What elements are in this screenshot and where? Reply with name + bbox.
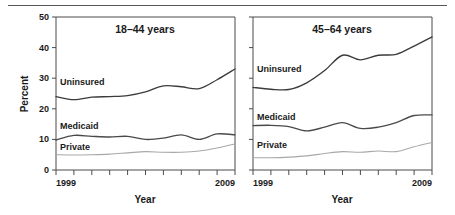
x-axis-title-right: Year xyxy=(331,194,352,205)
series-label-medicaid-right: Medicaid xyxy=(257,112,296,122)
y-tick-label-0: 0 xyxy=(44,165,49,175)
panel-title-left: 18–44 years xyxy=(115,23,175,35)
x-axis-ticks-left xyxy=(56,170,235,175)
x-tick-label-start-left: 1999 xyxy=(56,178,76,188)
series-line-medicaid-left xyxy=(56,134,235,140)
series-label-private-left: Private xyxy=(60,142,90,152)
y-tick-label-20: 20 xyxy=(39,104,49,114)
line-chart-svg: 50 40 30 20 10 0 Percent xyxy=(0,0,455,215)
y-axis-ticks-right xyxy=(249,17,253,170)
x-axis-title-left: Year xyxy=(134,194,155,205)
y-tick-label-40: 40 xyxy=(39,43,49,53)
panel-45-64: 1999 2009 Year 45–64 years Uninsured Med… xyxy=(249,17,432,205)
y-axis-ticks-left xyxy=(52,17,56,170)
series-label-uninsured-right: Uninsured xyxy=(257,64,302,74)
x-tick-label-start-right: 1999 xyxy=(253,178,273,188)
y-axis-title: Percent xyxy=(19,75,30,112)
panel-title-right: 45–64 years xyxy=(312,23,372,35)
series-label-private-right: Private xyxy=(257,140,287,150)
figure-container: 50 40 30 20 10 0 Percent xyxy=(0,0,455,215)
series-label-medicaid-left: Medicaid xyxy=(60,121,99,131)
x-tick-label-end-right: 2009 xyxy=(412,178,432,188)
x-axis-ticks-right xyxy=(253,170,432,175)
y-tick-label-50: 50 xyxy=(39,12,49,22)
x-tick-label-end-left: 2009 xyxy=(215,178,235,188)
y-tick-label-10: 10 xyxy=(39,134,49,144)
panel-18-44: 50 40 30 20 10 0 Percent xyxy=(19,12,235,205)
y-tick-label-30: 30 xyxy=(39,73,49,83)
series-label-uninsured-left: Uninsured xyxy=(60,77,105,87)
